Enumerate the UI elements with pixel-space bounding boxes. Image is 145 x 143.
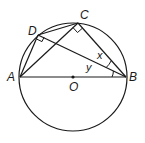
label-c: C — [80, 8, 89, 22]
angle-label-y: y — [85, 61, 93, 73]
center-point-o — [71, 75, 74, 78]
label-b: B — [129, 70, 137, 84]
label-o: O — [69, 80, 78, 94]
angle-arc-x — [106, 61, 111, 68]
geometry-diagram: A B C D O x y — [0, 0, 145, 143]
label-d: D — [28, 24, 37, 38]
right-angle-marker-c — [73, 28, 82, 33]
label-a: A — [6, 70, 15, 84]
angle-arc-y — [112, 71, 113, 77]
angle-label-x: x — [96, 49, 103, 61]
